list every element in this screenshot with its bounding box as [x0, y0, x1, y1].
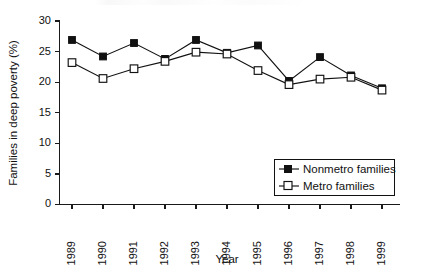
y-axis-title: Families in deep poverty (%) — [7, 40, 19, 186]
data-point-marker — [316, 75, 324, 83]
data-point-marker — [192, 48, 200, 56]
y-axis: 30 25 20 15 10 5 0 Families in deep pove… — [7, 14, 60, 210]
data-point-marker — [99, 75, 107, 83]
line-chart: 30 25 20 15 10 5 0 Families in deep pove… — [0, 0, 443, 272]
data-point-marker — [255, 42, 262, 49]
y-tick-label-15: 15 — [39, 106, 51, 118]
y-ticks — [55, 21, 60, 205]
y-tick-label-30: 30 — [39, 14, 51, 26]
data-point-marker — [68, 59, 76, 67]
x-axis-title: Year — [215, 253, 238, 265]
y-tick-label-10: 10 — [39, 136, 51, 148]
legend-label-nonmetro: Nonmetro families — [303, 163, 396, 175]
x-tick-label-1995: 1995 — [251, 241, 263, 265]
data-point-marker — [285, 81, 293, 89]
data-point-marker — [131, 40, 138, 47]
data-point-marker — [193, 37, 200, 44]
x-axis: 1989 1990 1991 1992 1993 1994 1995 1996 … — [60, 205, 401, 266]
chart-figure: 30 25 20 15 10 5 0 Families in deep pove… — [0, 0, 443, 272]
data-point-marker — [161, 58, 169, 66]
x-ticks — [72, 205, 382, 210]
y-tick-label-5: 5 — [45, 167, 51, 179]
y-tick-label-20: 20 — [39, 75, 51, 87]
series-metro — [68, 48, 386, 94]
data-point-marker — [378, 86, 386, 94]
x-tick-label-1990: 1990 — [96, 241, 108, 265]
data-point-marker — [347, 73, 355, 81]
data-point-marker — [223, 50, 231, 58]
series-nonmetro — [69, 37, 386, 92]
y-tick-label-25: 25 — [39, 45, 51, 57]
plot-series-group — [68, 37, 386, 94]
x-tick-label-1996: 1996 — [282, 241, 294, 265]
data-point-marker — [317, 54, 324, 61]
y-tick-label-0: 0 — [45, 197, 51, 209]
x-tick-label-1998: 1998 — [344, 241, 356, 265]
x-tick-label-1999: 1999 — [375, 241, 387, 265]
data-point-marker — [130, 65, 138, 73]
legend-marker-filled-square — [285, 166, 292, 173]
x-tick-label-1997: 1997 — [313, 241, 325, 265]
legend-label-metro: Metro families — [303, 180, 375, 192]
series-line — [72, 40, 382, 88]
x-tick-label-1991: 1991 — [127, 241, 139, 265]
legend-marker-open-square — [284, 182, 292, 190]
data-point-marker — [100, 53, 107, 60]
data-point-marker — [69, 37, 76, 44]
x-tick-label-1992: 1992 — [158, 241, 170, 265]
x-tick-label-1989: 1989 — [65, 241, 77, 265]
data-point-marker — [254, 67, 262, 75]
y-tick-labels: 30 25 20 15 10 5 0 — [39, 14, 51, 210]
legend: Nonmetro families Metro families — [275, 160, 396, 196]
x-tick-label-1993: 1993 — [189, 241, 201, 265]
